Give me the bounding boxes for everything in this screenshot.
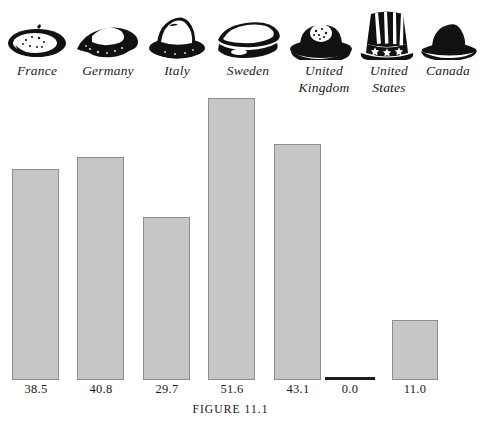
country-label-canada: Canada (416, 62, 480, 79)
tyrolean-hat-icon (72, 0, 142, 60)
value-label-italy: 29.7 (139, 382, 195, 397)
value-label-germany: 40.8 (73, 382, 129, 397)
bar-france (12, 169, 59, 380)
value-label-france: 38.5 (8, 382, 64, 397)
fedora-hat-icon (146, 0, 208, 60)
bar-germany (77, 157, 124, 380)
country-label-row: France Germany Italy Sweden United Kingd… (0, 62, 461, 100)
country-label-france: France (2, 62, 72, 79)
value-label-row: 38.5 40.8 29.7 51.6 43.1 0.0 11.0 (0, 382, 461, 402)
stars-stripes-top-hat-icon (358, 0, 416, 60)
country-label-germany: Germany (68, 62, 148, 79)
beret-hat-icon (4, 0, 70, 60)
value-label-sweden: 51.6 (204, 382, 260, 397)
bar-sweden (208, 98, 255, 380)
bar-united-kingdom (274, 144, 321, 380)
peaked-cap-icon (212, 0, 284, 60)
value-label-canada: 11.0 (387, 382, 443, 397)
figure-caption: FIGURE 11.1 (0, 403, 461, 415)
bar-canada (392, 320, 438, 380)
bar-italy (143, 217, 190, 380)
bar-plot-area (0, 100, 461, 380)
hat-illustration-row (0, 0, 461, 60)
country-label-sweden: Sweden (208, 62, 288, 79)
bar-united-states (325, 377, 375, 380)
value-label-united-kingdom: 43.1 (270, 382, 326, 397)
value-label-united-states: 0.0 (322, 382, 378, 397)
mountie-hat-icon (418, 0, 480, 60)
country-label-united-states: United States (356, 62, 422, 96)
country-label-united-kingdom: United Kingdom (286, 62, 362, 96)
country-label-italy: Italy (148, 62, 206, 79)
bowler-hat-icon (288, 0, 354, 60)
